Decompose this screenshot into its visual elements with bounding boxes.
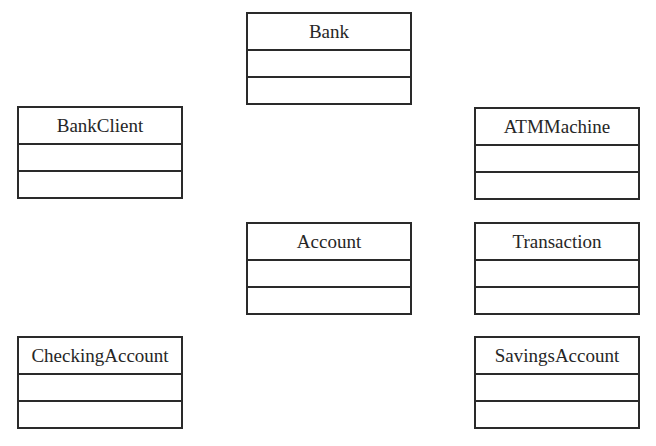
- class-box-atm-machine: ATMMachine: [474, 107, 640, 200]
- class-box-savings-account: SavingsAccount: [474, 336, 640, 429]
- attributes-compartment-bank: [248, 51, 410, 78]
- class-name-checking-account: CheckingAccount: [19, 338, 181, 375]
- class-name-savings-account: SavingsAccount: [476, 338, 638, 375]
- attributes-compartment-checking-account: [19, 375, 181, 402]
- attributes-compartment-bank-client: [19, 145, 181, 172]
- attributes-compartment-transaction: [476, 261, 638, 288]
- operations-compartment-atm-machine: [476, 173, 638, 198]
- operations-compartment-savings-account: [476, 402, 638, 427]
- class-name-account: Account: [248, 224, 410, 261]
- class-box-transaction: Transaction: [474, 222, 640, 315]
- class-box-bank: Bank: [246, 12, 412, 105]
- operations-compartment-checking-account: [19, 402, 181, 427]
- operations-compartment-bank-client: [19, 172, 181, 197]
- attributes-compartment-account: [248, 261, 410, 288]
- class-name-bank-client: BankClient: [19, 108, 181, 145]
- class-box-account: Account: [246, 222, 412, 315]
- class-name-transaction: Transaction: [476, 224, 638, 261]
- class-name-atm-machine: ATMMachine: [476, 109, 638, 146]
- operations-compartment-bank: [248, 78, 410, 103]
- attributes-compartment-savings-account: [476, 375, 638, 402]
- attributes-compartment-atm-machine: [476, 146, 638, 173]
- operations-compartment-account: [248, 288, 410, 313]
- class-name-bank: Bank: [248, 14, 410, 51]
- class-box-bank-client: BankClient: [17, 106, 183, 199]
- class-box-checking-account: CheckingAccount: [17, 336, 183, 429]
- operations-compartment-transaction: [476, 288, 638, 313]
